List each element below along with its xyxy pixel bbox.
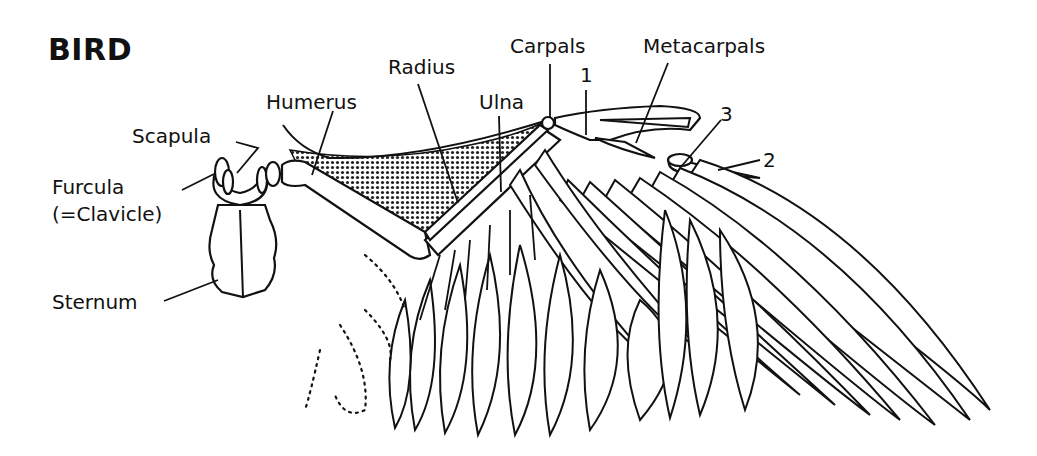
- diagram-title: BIRD: [48, 32, 132, 67]
- primary-feathers: [560, 160, 990, 425]
- label-carpals: Carpals: [510, 35, 585, 57]
- label-ulna: Ulna: [479, 91, 524, 113]
- label-furcula: Furcula: [52, 176, 124, 198]
- label-scapula: Scapula: [132, 125, 211, 147]
- label-humerus: Humerus: [266, 91, 357, 113]
- label-metacarpals: Metacarpals: [643, 35, 765, 57]
- label-clavicle: (=Clavicle): [52, 203, 162, 225]
- wing-skeleton-drawing: [0, 0, 1037, 456]
- label-digit-2: 2: [763, 149, 776, 171]
- label-radius: Radius: [388, 56, 455, 78]
- label-digit-1: 1: [580, 64, 593, 86]
- bird-wing-diagram: BIRD Scapula Furcula (=Clavicle) Sternum…: [0, 0, 1037, 456]
- label-digit-3: 3: [720, 103, 733, 125]
- carpals-bone: [542, 117, 554, 129]
- label-sternum: Sternum: [52, 291, 138, 313]
